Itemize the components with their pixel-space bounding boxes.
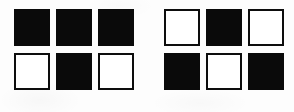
grid-cell-white	[14, 53, 50, 90]
grid-cell-black	[248, 53, 284, 90]
figure-canvas	[0, 0, 294, 112]
grid-cell-white	[98, 53, 134, 90]
left-square-grid	[14, 9, 134, 90]
grid-cell-black	[56, 53, 92, 90]
grid-cell-white	[164, 9, 200, 46]
grid-cell-black	[14, 9, 50, 46]
grid-cell-white	[248, 9, 284, 46]
grid-cell-white	[206, 53, 242, 90]
grid-cell-black	[56, 9, 92, 46]
grid-cell-black	[164, 53, 200, 90]
right-square-grid	[164, 9, 284, 90]
grid-cell-black	[98, 9, 134, 46]
grid-cell-black	[206, 9, 242, 46]
